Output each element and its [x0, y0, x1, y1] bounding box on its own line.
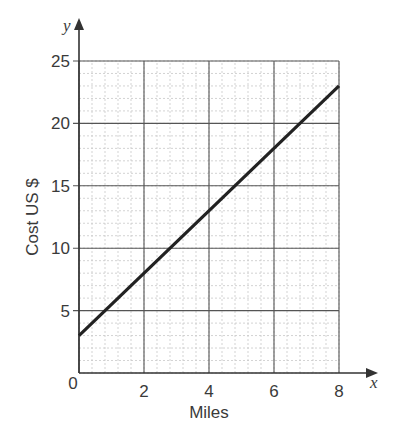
y-axis-label: Cost US $ [23, 178, 42, 256]
y-tick-label: 20 [51, 114, 70, 133]
x-tick-label: 4 [204, 382, 213, 401]
major-grid [73, 61, 339, 373]
y-axis-variable: y [61, 16, 71, 35]
x-tick-label: 6 [269, 382, 278, 401]
y-tick-label: 10 [51, 239, 70, 258]
x-tick-label: 2 [139, 382, 148, 401]
x-axis-variable: x [369, 373, 378, 392]
y-tick-label: 5 [61, 302, 70, 321]
y-tick-label: 15 [51, 177, 70, 196]
y-tick-label: 25 [51, 52, 70, 71]
line-chart: 02468510152025 Miles Cost US $ x y [0, 0, 402, 436]
x-tick-label: 0 [68, 374, 77, 393]
x-axis-label: Miles [189, 403, 229, 422]
x-tick-label: 8 [334, 382, 343, 401]
